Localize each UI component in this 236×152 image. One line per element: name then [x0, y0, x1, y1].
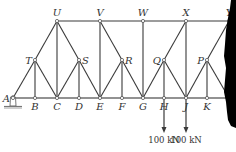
node-F: [120, 96, 123, 99]
node-B: [33, 96, 36, 99]
node-label-H: H: [159, 101, 169, 112]
truss-diagram: 100 kN100 kN ABCDEFGHJKTSRQPUVWXY: [0, 0, 236, 152]
node-E: [98, 96, 101, 99]
member-V-R: [100, 21, 122, 60]
member-R-G: [122, 60, 143, 98]
arrow-down-icon: [162, 127, 167, 133]
node-label-F: F: [118, 101, 127, 112]
node-label-B: B: [30, 101, 38, 112]
arrow-down-icon: [184, 127, 189, 133]
ground-hatch: [4, 107, 22, 109]
node-label-P: P: [196, 55, 204, 66]
node-X: [184, 19, 187, 22]
node-label-V: V: [96, 7, 105, 18]
member-G-Q: [143, 60, 164, 98]
node-label-D: D: [74, 101, 83, 112]
node-R: [120, 58, 123, 61]
torn-page-edge: [224, 0, 236, 128]
node-Q: [162, 58, 165, 61]
node-W: [141, 19, 144, 22]
member-R-E: [100, 60, 122, 98]
node-C: [55, 96, 58, 99]
node-K: [205, 96, 208, 99]
node-label-Q: Q: [153, 55, 161, 66]
node-label-T: T: [25, 55, 33, 66]
node-H: [162, 96, 165, 99]
node-U: [55, 19, 58, 22]
node-J: [184, 96, 187, 99]
node-D: [77, 96, 80, 99]
node-label-R: R: [124, 55, 133, 66]
node-label-W: W: [138, 7, 149, 18]
load-label: 100 kN: [170, 135, 202, 145]
node-P: [205, 58, 208, 61]
node-A: [11, 96, 14, 99]
member-T-U: [35, 21, 57, 60]
member-T-C: [35, 60, 57, 98]
member-U-S: [57, 21, 79, 60]
node-T: [33, 58, 36, 61]
member-J-P: [186, 60, 207, 98]
node-V: [98, 19, 101, 22]
node-label-G: G: [139, 101, 147, 112]
node-label-C: C: [53, 101, 61, 112]
node-label-S: S: [82, 55, 89, 66]
node-label-A: A: [2, 93, 10, 104]
node-label-X: X: [181, 7, 190, 18]
node-G: [141, 96, 144, 99]
node-label-E: E: [95, 101, 104, 112]
node-label-U: U: [53, 7, 62, 18]
member-S-E: [79, 60, 100, 98]
load-arrows: 100 kN100 kN: [148, 98, 202, 145]
node-label-J: J: [182, 101, 189, 112]
node-label-K: K: [202, 101, 211, 112]
member-Q-X: [164, 21, 186, 60]
member-A-T: [13, 60, 35, 98]
member-Q-J: [164, 60, 186, 98]
member-S-C: [57, 60, 79, 98]
node-S: [77, 58, 80, 61]
